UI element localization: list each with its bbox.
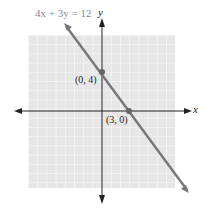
point-label-y-intercept: (0, 4) [75, 74, 97, 85]
point-label-x-intercept: (3, 0) [106, 114, 128, 125]
point-y-intercept [99, 69, 105, 75]
y-axis-label: y [98, 6, 103, 18]
x-axis-label: x [193, 103, 198, 115]
graph-canvas [0, 0, 207, 214]
equation-label: 4x + 3y = 12 [35, 7, 91, 19]
